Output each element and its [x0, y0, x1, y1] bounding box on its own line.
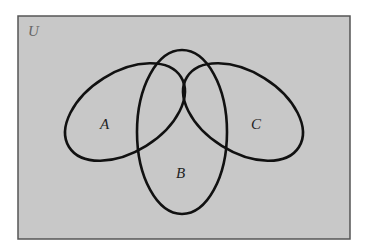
universe-label: U: [28, 23, 40, 39]
set-a-label: A: [99, 116, 110, 132]
set-b-label: B: [176, 165, 185, 181]
venn-diagram: U A B C: [0, 0, 373, 245]
set-c-label: C: [251, 116, 262, 132]
